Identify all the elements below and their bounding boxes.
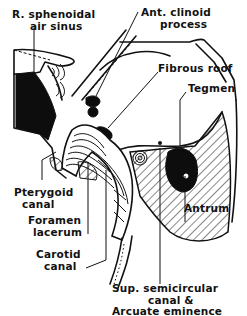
foramen-dot-1 — [88, 107, 98, 117]
small-dot — [158, 141, 162, 145]
label-carotid-2: canal — [44, 260, 76, 272]
label-ant-clinoid-2: process — [160, 18, 207, 30]
label-sphenoidal-1: R. sphenoidal — [12, 8, 95, 20]
sphenoidal-air-sinus — [16, 72, 56, 140]
label-sphenoidal-2: air sinus — [30, 20, 82, 32]
leader-ant-clinoid — [96, 12, 138, 96]
label-foramen-1: Foramen — [28, 214, 81, 226]
label-fibrous-roof: Fibrous roof — [158, 62, 233, 74]
leader-tegmen — [180, 92, 186, 146]
label-pterygoid-1: Pterygoid — [14, 186, 74, 198]
foramen-black-top — [86, 96, 100, 107]
label-antrum: Antrum — [184, 202, 229, 214]
label-foramen-2: lacerum — [33, 226, 82, 238]
anterior-clinoid-band — [72, 30, 136, 100]
anatomy-diagram: R. sphenoidal air sinus Ant. clinoid pro… — [0, 0, 247, 316]
label-pterygoid-2: canal — [22, 198, 54, 210]
label-carotid-1: Carotid — [36, 248, 81, 260]
leader-carotid — [86, 170, 106, 268]
label-tegmen: Tegmen — [188, 82, 235, 94]
label-ant-clinoid-1: Ant. clinoid — [141, 6, 211, 18]
ridge-marks — [52, 64, 65, 98]
label-sup-canal-3: Arcuate eminence — [112, 305, 222, 316]
leader-fibrous-roof — [108, 72, 158, 128]
label-sup-canal-1: Sup. semicircular — [112, 282, 219, 294]
